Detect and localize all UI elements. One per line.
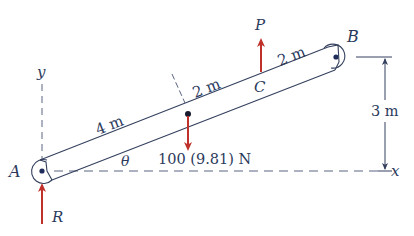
dimension-2m-middle: 2 m [190, 75, 223, 102]
pin-a-dot [39, 168, 44, 173]
point-b-label: B [346, 27, 359, 46]
y-axis-label: y [36, 63, 46, 81]
weight-label: 100 (9.81) N [158, 151, 251, 167]
pin-b-dot [333, 54, 338, 59]
point-c-label: C [254, 78, 266, 96]
angle-theta-label: θ [121, 153, 130, 169]
dimension-2m-end: 2 m [275, 43, 308, 70]
reaction-r-label: R [51, 208, 63, 226]
dimension-4m: 4 m [93, 112, 126, 139]
beam-diagram: y x 4 m 2 m 2 m 100 (9.81) N θ P C A B R… [0, 0, 414, 236]
division-tick [172, 74, 185, 103]
force-p-label: P [254, 16, 266, 34]
point-a-label: A [7, 162, 21, 181]
dimension-3m: 3 m [371, 103, 399, 119]
x-axis-label: x [391, 162, 400, 180]
